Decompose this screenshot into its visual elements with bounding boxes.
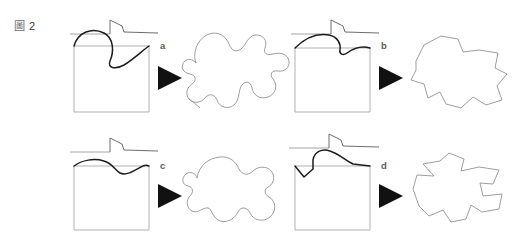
generator-step-b	[331, 20, 379, 34]
fractal-island-a	[182, 33, 289, 107]
generator-curve-b	[295, 35, 370, 55]
panel-letter-d-group: d	[381, 160, 387, 171]
arrow-icon-c	[158, 184, 182, 208]
panel-letter-c-group: c	[160, 160, 165, 171]
panel-letter-c: c	[160, 160, 165, 171]
generator-diagram-d	[289, 134, 379, 148]
generator-step-a	[110, 20, 158, 34]
generator-curve-c	[74, 160, 149, 174]
initiator-square-c	[74, 166, 149, 230]
square-outline-c	[74, 166, 149, 230]
fractal-island-c	[183, 157, 275, 222]
arrow-icon-d	[379, 184, 403, 208]
figure-caption: 圖 2	[14, 21, 35, 32]
panel-letter-d: d	[381, 160, 387, 171]
arrow-icon-a	[158, 66, 182, 90]
generator-curve-a	[74, 31, 149, 68]
panel-b: b	[283, 8, 519, 123]
panel-letter-a-group: a	[160, 40, 166, 51]
generator-step-d	[329, 134, 379, 148]
panel-letter-a: a	[160, 40, 166, 51]
fractal-island-d	[413, 153, 502, 222]
initiator-square-b	[295, 48, 370, 112]
fractal-island-a-detail	[189, 99, 200, 108]
panel-d: d	[283, 126, 519, 241]
figure-caption-number: 2	[29, 21, 35, 32]
square-outline-b	[295, 48, 370, 112]
panel-a: a	[62, 8, 305, 123]
panel-letter-b-group: b	[381, 40, 387, 51]
panel-c: c	[62, 126, 305, 241]
fractal-island-b	[411, 36, 507, 108]
generator-diagram-b	[291, 20, 379, 34]
generator-diagram-c	[70, 138, 158, 152]
arrow-icon-b	[379, 66, 403, 90]
generator-diagram-a	[70, 20, 158, 34]
generator-curve-d	[295, 150, 370, 177]
figure-caption-glyph: 圖	[14, 21, 25, 32]
figure-root: 圖 2 a	[0, 0, 519, 242]
panel-letter-b: b	[381, 40, 387, 51]
generator-step-c	[110, 138, 158, 152]
